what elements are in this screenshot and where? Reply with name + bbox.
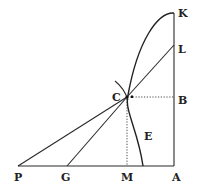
label-C: C bbox=[112, 91, 121, 104]
geometric-diagram: K L B A C M G P E bbox=[0, 0, 198, 188]
label-A: A bbox=[171, 171, 181, 184]
point-C-marker bbox=[125, 95, 128, 98]
label-K: K bbox=[178, 7, 188, 20]
label-G: G bbox=[61, 171, 70, 184]
label-M: M bbox=[121, 171, 133, 184]
label-B: B bbox=[178, 94, 187, 107]
label-L: L bbox=[178, 43, 186, 56]
point-C-tick bbox=[131, 96, 133, 99]
label-P: P bbox=[14, 171, 22, 184]
line-PC bbox=[18, 97, 127, 166]
line-GC bbox=[67, 97, 127, 166]
label-E: E bbox=[144, 130, 152, 143]
